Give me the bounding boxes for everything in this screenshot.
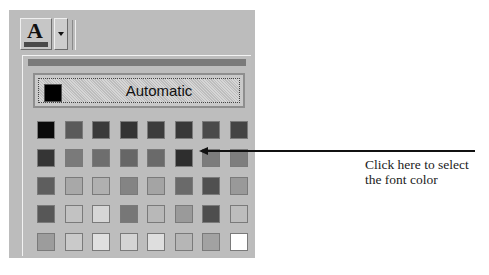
color-swatch[interactable] [37,205,55,223]
color-swatch[interactable] [175,233,193,251]
color-swatch[interactable] [175,205,193,223]
color-swatch[interactable] [147,205,165,223]
color-swatch[interactable] [92,233,110,251]
color-swatch[interactable] [230,233,248,251]
color-swatch[interactable] [147,149,165,167]
color-swatch[interactable] [147,177,165,195]
color-swatch[interactable] [147,121,165,139]
toolbar-separator [72,20,76,50]
color-swatch[interactable] [230,177,248,195]
color-swatch[interactable] [230,121,248,139]
color-swatch[interactable] [202,177,220,195]
color-swatch[interactable] [65,205,83,223]
color-swatch[interactable] [175,121,193,139]
font-color-toolbar-panel: A Automatic [9,10,255,258]
color-swatch[interactable] [147,233,165,251]
automatic-label: Automatic [79,82,239,99]
color-swatch[interactable] [65,233,83,251]
color-swatch[interactable] [120,149,138,167]
font-color-icon: A [27,20,43,42]
color-swatch[interactable] [92,121,110,139]
font-color-indicator-bar [24,42,48,47]
dropdown-arrow-icon [58,32,64,36]
color-swatch[interactable] [37,121,55,139]
font-color-dropdown-button[interactable] [54,18,68,50]
color-swatch[interactable] [37,177,55,195]
color-swatch[interactable] [65,121,83,139]
color-swatch[interactable] [202,121,220,139]
color-swatch[interactable] [92,177,110,195]
color-swatch[interactable] [175,149,193,167]
color-swatch[interactable] [175,177,193,195]
callout-line-2: the font color [365,172,469,187]
color-swatch[interactable] [120,121,138,139]
color-swatch[interactable] [202,233,220,251]
automatic-focus-rect: Automatic [38,78,240,103]
color-swatch[interactable] [37,233,55,251]
color-swatch[interactable] [92,149,110,167]
callout-line-1: Click here to select [365,157,469,172]
color-swatch[interactable] [120,177,138,195]
color-swatch[interactable] [92,205,110,223]
palette-drag-handle[interactable] [28,59,246,66]
callout-text: Click here to select the font color [365,157,469,187]
color-swatch[interactable] [65,177,83,195]
color-swatch[interactable] [202,205,220,223]
color-swatch[interactable] [120,233,138,251]
color-swatch[interactable] [120,205,138,223]
font-color-palette-dropdown: Automatic [22,55,251,256]
callout-arrow-line [207,150,475,152]
color-swatch[interactable] [37,149,55,167]
automatic-color-button[interactable]: Automatic [33,73,245,108]
automatic-swatch [44,84,62,102]
color-swatch[interactable] [65,149,83,167]
font-color-button[interactable]: A [20,18,52,50]
color-swatch[interactable] [230,205,248,223]
